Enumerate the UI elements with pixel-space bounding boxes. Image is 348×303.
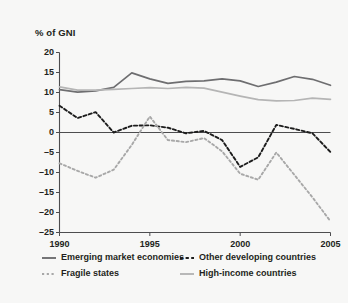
series-line-3 — [60, 87, 331, 101]
y-tick-label: 15 — [28, 67, 54, 77]
y-tick-label: 0 — [28, 127, 54, 137]
y-axis-unit-label: % of GNI — [35, 27, 75, 38]
x-tick-label: 2005 — [314, 239, 348, 249]
y-tick-label: –15 — [28, 187, 54, 197]
legend-item-label: High-income countries — [199, 268, 297, 278]
chart-axes — [56, 53, 331, 237]
y-tick-label: –25 — [28, 227, 54, 237]
y-tick-label: –10 — [28, 167, 54, 177]
legend-item-label: Emerging market economies — [61, 252, 184, 262]
y-tick-label: 20 — [28, 47, 54, 57]
x-tick-label: 1990 — [43, 239, 77, 249]
y-tick-label: 10 — [28, 87, 54, 97]
chart-series-group — [60, 73, 331, 221]
chart-figure: % of GNI 20151050–5–10–15–20–25 19901995… — [0, 0, 348, 303]
x-tick-label: 1995 — [133, 239, 167, 249]
y-tick-label: 5 — [28, 107, 54, 117]
y-tick-label: –20 — [28, 207, 54, 217]
series-line-1 — [60, 106, 331, 167]
legend-item-label: Fragile states — [61, 268, 119, 278]
x-tick-label: 2000 — [223, 239, 257, 249]
legend-item-label: Other developing countries — [199, 252, 316, 262]
y-tick-label: –5 — [28, 147, 54, 157]
